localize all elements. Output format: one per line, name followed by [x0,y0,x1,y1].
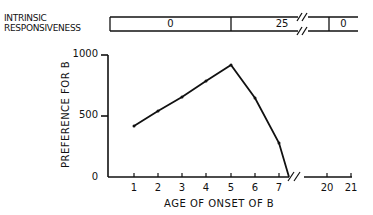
xtick-7: 7 [276,182,282,193]
xtick-4: 4 [203,182,209,193]
preference-line [134,65,289,177]
chart-canvas [0,0,373,215]
xtick-1: 1 [131,182,137,193]
y-axis-label: PREFERENCE FOR B [60,61,71,168]
xtick-2: 2 [155,182,161,193]
bar-segment-0b: 0 [329,18,358,29]
bar-segment-25: 25 [262,18,302,29]
ytick-0: 0 [68,171,98,182]
xtick-6: 6 [252,182,258,193]
bar-segment-0: 0 [110,18,231,29]
xtick-3: 3 [179,182,185,193]
ytick-500: 500 [68,109,98,120]
x-axis-label: AGE OF ONSET OF B [164,198,274,209]
axes [101,55,352,177]
ytick-1000: 1000 [68,48,98,59]
xtick-21: 21 [345,182,358,193]
xtick-5: 5 [228,182,234,193]
xtick-20: 20 [321,182,334,193]
